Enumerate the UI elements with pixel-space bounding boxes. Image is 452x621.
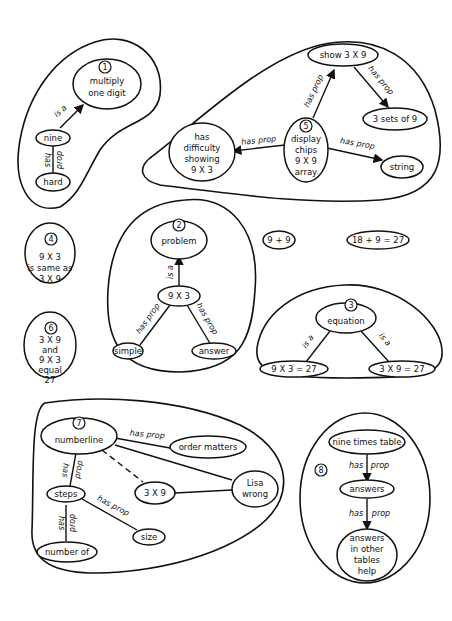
node-label: and: [42, 345, 58, 355]
number-6-label: 6: [48, 324, 53, 333]
rel-has: has: [349, 461, 363, 470]
node-label: problem: [161, 236, 196, 246]
rel-has: has: [57, 516, 66, 530]
node-label: one digit: [88, 88, 126, 98]
node-label: simple: [114, 346, 142, 356]
node-label: 3 X 9: [39, 335, 61, 345]
node-label: answers: [349, 533, 385, 543]
node-label: showing: [184, 154, 219, 164]
node-label: nine times table: [333, 437, 402, 447]
rel-has-prop: has prop: [339, 136, 375, 151]
node-label: multiply: [90, 76, 125, 86]
rel-has: has: [60, 463, 70, 478]
rel-prop: prop: [55, 151, 64, 170]
node-label: nine: [44, 133, 62, 143]
node-label: Lisa: [247, 478, 264, 488]
node-label: 9 X 3: [168, 291, 190, 301]
edge-numberline-3x9-dashed: [102, 450, 143, 482]
number-7-label: 7: [76, 419, 81, 428]
node-label: 9 X 3 = 27: [271, 364, 316, 374]
rel-is-a: is a: [300, 333, 315, 350]
rel-is-a: is a: [377, 331, 393, 347]
node-label: hard: [43, 177, 62, 187]
node-label: 3 sets of 9: [373, 114, 418, 124]
node-label: 9 X 9: [295, 156, 317, 166]
node-label: 9 X 3: [191, 165, 213, 175]
number-8-label: 8: [318, 466, 323, 475]
rel-has: has: [43, 153, 52, 167]
node-label: equal: [38, 365, 62, 375]
rel-has: has: [349, 509, 363, 518]
node-label: array: [295, 167, 317, 177]
node-label: string: [390, 162, 414, 172]
node-label: tables: [354, 555, 381, 565]
node-label: 27: [45, 375, 56, 385]
rel-prop: prop: [371, 509, 390, 518]
node-label: order matters: [179, 442, 238, 452]
concept-map: is a has prop 1 multiply one digit nine …: [0, 0, 452, 621]
node-label: answers: [349, 484, 385, 494]
edge-3x9-lisa: [175, 490, 232, 493]
node-label: numberline: [55, 435, 104, 445]
number-2-label: 2: [176, 221, 181, 230]
node-label: show 3 X 9: [320, 50, 367, 60]
node-label: display: [291, 134, 321, 144]
node-label: 3 X 9: [39, 274, 61, 284]
rel-prop: prop: [68, 514, 77, 533]
rel-prop: prop: [72, 460, 84, 481]
rel-has-prop: has prop: [241, 134, 277, 147]
node-label: equation: [327, 316, 365, 326]
node-label: wrong: [242, 489, 268, 499]
number-5-label: 5: [303, 122, 308, 131]
number-3-label: 3: [348, 301, 353, 310]
node-label: chips: [295, 145, 318, 155]
number-1-label: 1: [102, 63, 107, 72]
rel-has-prop: has prop: [96, 494, 131, 518]
rel-prop: prop: [370, 461, 389, 470]
rel-has-prop: has prop: [134, 302, 161, 336]
rel-is-a: is a: [166, 265, 175, 279]
node-label: steps: [55, 489, 78, 499]
node-label: 3 X 9 = 27: [379, 364, 424, 374]
node-label: answer: [199, 346, 230, 356]
rel-has-prop: has prop: [366, 64, 395, 97]
rel-has-prop: has prop: [195, 301, 220, 336]
number-4-label: 4: [48, 235, 53, 244]
node-label: is same as: [28, 263, 74, 273]
node-label: size: [141, 532, 157, 542]
node-label: number of: [45, 547, 90, 557]
node-label: 9 + 9: [267, 235, 290, 245]
node-label: help: [358, 566, 376, 576]
node-label: in other: [350, 544, 384, 554]
rel-has-prop: has prop: [129, 429, 165, 441]
node-label: difficulty: [184, 143, 221, 153]
node-label: 18 + 9 = 27: [352, 235, 404, 245]
rel-has-prop: has prop: [302, 73, 325, 109]
node-label: has: [194, 132, 210, 142]
node-label: 9 X 3: [39, 355, 61, 365]
node-label: 3 X 9: [144, 488, 166, 498]
node-label: 9 X 3: [39, 252, 61, 262]
rel-is-a: is a: [52, 103, 68, 119]
